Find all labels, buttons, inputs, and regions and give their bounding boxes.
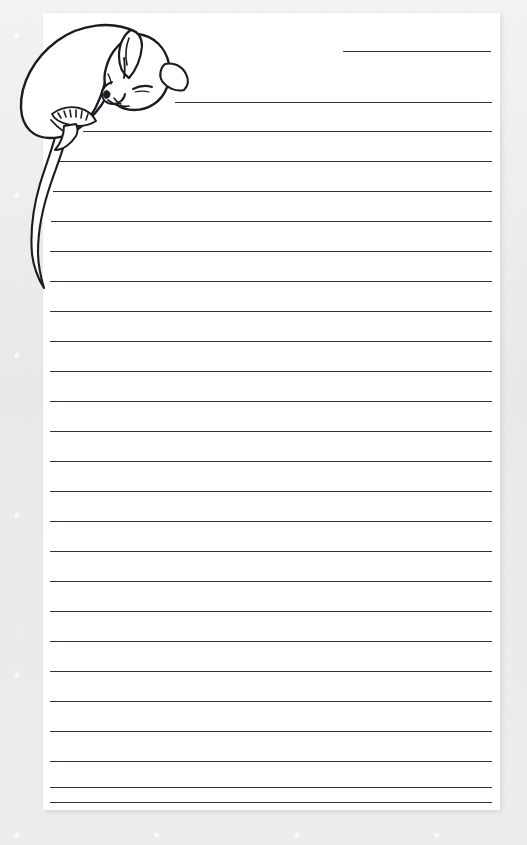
paper-sheet [43,13,500,810]
